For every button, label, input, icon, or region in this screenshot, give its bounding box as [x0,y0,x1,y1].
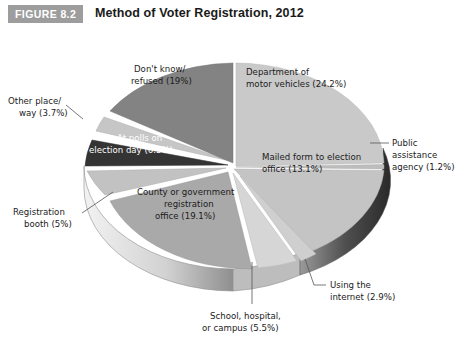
label-internet-line2: internet (2.9%) [330,292,395,302]
label-mailed-line1: Mailed form to election [262,152,361,162]
label-dontknow-line2: refused (19%) [131,76,192,86]
label-dontknow-line1: Don't know/ [134,64,185,74]
label-regbooth-line1: Registration [13,207,65,217]
leader-other-place-way [66,105,83,119]
label-county-line2: registration [164,199,214,209]
figure-container: FIGURE 8.2 Method of Voter Registration,… [0,0,468,342]
label-county-line1: County or government [137,187,235,197]
pie-chart: Department of motor vehicles (24.2%) Mai… [0,0,468,342]
label-atpolls-line1: At polls on [117,133,162,143]
label-publicassist-line2: assistance [392,150,437,160]
label-otherplace-line2: way (3.7%) [19,108,68,118]
label-otherplace-line1: Other place/ [8,96,61,106]
label-atpolls-line2: election day (6.3%) [89,145,173,155]
label-school-line2: or campus (5.5%) [202,323,279,333]
label-dmv-line2: motor vehicles (24.2%) [246,79,346,89]
label-county-line3: office (19.1%) [155,211,215,221]
label-dmv-line1: Department of [246,67,310,77]
label-publicassist-line1: Public [392,138,418,148]
label-publicassist-line3: agency (1.2%) [392,162,455,172]
label-regbooth-line2: booth (5%) [24,219,72,229]
label-internet-line1: Using the [330,280,371,290]
label-school-line1: School, hospital, [210,311,281,321]
label-mailed-line2: office (13.1%) [262,164,322,174]
